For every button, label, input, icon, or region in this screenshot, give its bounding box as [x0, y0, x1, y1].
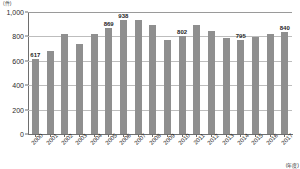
x-axis-label-slot: 2007 — [131, 137, 146, 165]
bar-slot: 802 — [175, 12, 190, 134]
bar-chart: (件) 02004006008001,000 61786993880279584… — [0, 0, 300, 169]
bar-value-label: 869 — [104, 21, 114, 27]
bar-slot: 869 — [101, 12, 116, 134]
bar[interactable] — [193, 25, 200, 134]
x-axis-label-slot: 2009 — [160, 137, 175, 165]
bar[interactable]: 840 — [281, 32, 288, 134]
bar-value-label: 938 — [118, 13, 128, 19]
x-axis-label-slot: 2004 — [87, 137, 102, 165]
x-axis-label-slot: 2006 — [116, 137, 131, 165]
bar-slot: 938 — [116, 12, 131, 134]
x-axis-unit-label: (年度) — [286, 161, 299, 168]
x-axis-label-slot: 2003 — [72, 137, 87, 165]
bar[interactable]: 869 — [105, 28, 112, 134]
bar-value-label: 802 — [177, 29, 187, 35]
bar-slot — [57, 12, 72, 134]
bar-slot — [145, 12, 160, 134]
bar-slot — [131, 12, 146, 134]
x-axis-label-slot: 2012 — [204, 137, 219, 165]
bar-slot — [87, 12, 102, 134]
bar[interactable] — [47, 51, 54, 134]
x-axis-label-slot: 2002 — [57, 137, 72, 165]
x-axis-label-slot: 2001 — [43, 137, 58, 165]
bar-slot — [219, 12, 234, 134]
bar-slot: 795 — [233, 12, 248, 134]
bar-slot — [189, 12, 204, 134]
bar-value-label: 795 — [236, 33, 246, 39]
bar-value-label: 840 — [280, 25, 290, 31]
bar-slot — [43, 12, 58, 134]
bar-slot — [160, 12, 175, 134]
x-axis-label-slot: 2016 — [263, 137, 278, 165]
bar-value-label: 617 — [30, 52, 40, 58]
x-axis-label-slot: 2008 — [145, 137, 160, 165]
bar[interactable] — [91, 34, 98, 134]
bar-slot — [263, 12, 278, 134]
y-axis-unit-label: (件) — [3, 0, 11, 6]
bar[interactable]: 795 — [237, 40, 244, 134]
bar-slot — [248, 12, 263, 134]
bar[interactable]: 802 — [179, 36, 186, 134]
bar[interactable] — [135, 20, 142, 134]
x-axis-label-slot: 2010 — [175, 137, 190, 165]
x-axis-label-slot: 2014 — [233, 137, 248, 165]
bar[interactable] — [252, 37, 259, 134]
bar-slot: 840 — [277, 12, 292, 134]
bar[interactable] — [208, 31, 215, 134]
x-axis-labels: 2000200120022003200420052006200720082009… — [28, 137, 292, 165]
bar[interactable] — [149, 25, 156, 134]
x-axis-label-slot: 2013 — [219, 137, 234, 165]
bar[interactable]: 938 — [120, 20, 127, 134]
x-axis-label-slot: 2005 — [101, 137, 116, 165]
x-axis-label-slot: 2000 — [28, 137, 43, 165]
bar[interactable]: 617 — [32, 59, 39, 134]
bar-slot — [72, 12, 87, 134]
bar-slot: 617 — [28, 12, 43, 134]
bar[interactable] — [61, 34, 68, 134]
bar[interactable] — [267, 34, 274, 134]
x-axis-label-slot: 2015 — [248, 137, 263, 165]
bar-slot — [204, 12, 219, 134]
bar[interactable] — [223, 38, 230, 134]
bar[interactable] — [164, 40, 171, 134]
plot-area: 02004006008001,000 617869938802795840 — [28, 12, 292, 134]
x-axis-label-slot: 2011 — [189, 137, 204, 165]
bar-series: 617869938802795840 — [28, 12, 292, 134]
bar[interactable] — [76, 44, 83, 134]
